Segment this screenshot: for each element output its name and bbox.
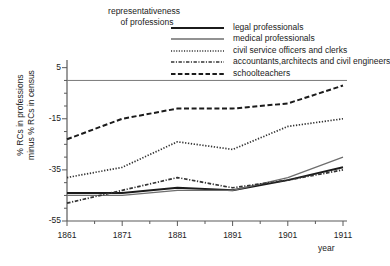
x-tick-label: 1871 [107,230,137,240]
series-line-2 [67,119,343,178]
x-tick-label: 1911 [328,230,358,240]
series-line-0 [67,167,343,193]
y-tick-label: -55 [35,215,61,225]
x-tick-label: 1881 [162,230,192,240]
x-tick-label: 1901 [273,230,303,240]
series-line-3 [67,170,343,203]
y-tick-label: -35 [35,164,61,174]
x-tick-label: 1891 [218,230,248,240]
y-tick-label: -15 [35,113,61,123]
series-line-4 [67,86,343,140]
y-tick-label: 5 [35,62,61,72]
x-tick-label: 1861 [52,230,82,240]
